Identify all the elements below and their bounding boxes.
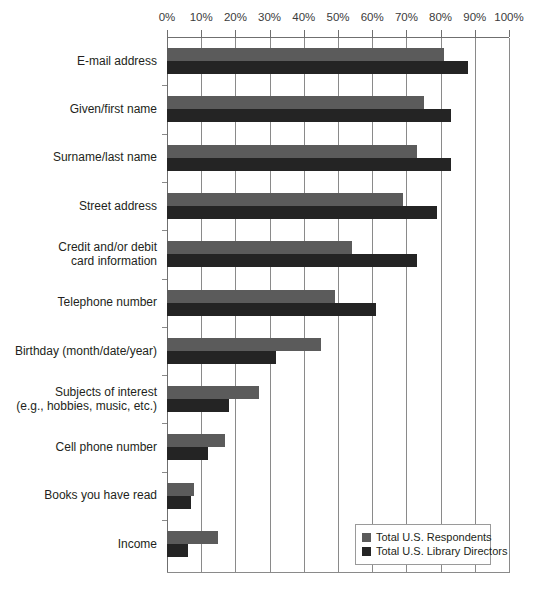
chart-legend: Total U.S. RespondentsTotal U.S. Library… <box>355 524 491 565</box>
bar-group <box>167 96 509 122</box>
bar <box>167 96 424 109</box>
category-label-line: Credit and/or debit <box>0 240 157 255</box>
legend-swatch-icon <box>362 533 371 542</box>
bar-group <box>167 290 509 316</box>
category-label-line: (e.g., hobbies, music, etc.) <box>0 399 157 414</box>
y-tick-mark <box>162 279 167 280</box>
legend-label: Total U.S. Respondents <box>376 531 492 544</box>
category-label-line: Given/first name <box>0 102 157 117</box>
bar <box>167 434 225 447</box>
category-label-line: Subjects of interest <box>0 385 157 400</box>
x-axis-tick-labels: 0%10%20%30%40%50%60%70%80%90%100% <box>0 10 536 26</box>
bar-group <box>167 241 509 267</box>
plot-area <box>167 38 509 573</box>
category-label-line: Surname/last name <box>0 150 157 165</box>
bar <box>167 496 191 509</box>
x-tick-mark <box>338 30 339 37</box>
bar <box>167 206 437 219</box>
bar <box>167 290 335 303</box>
bar <box>167 531 218 544</box>
y-tick-mark <box>162 520 167 521</box>
category-label-line: Income <box>0 537 157 552</box>
category-label: Given/first name <box>0 102 162 117</box>
category-label-line: Street address <box>0 199 157 214</box>
bar <box>167 61 468 74</box>
category-label: Street address <box>0 199 162 214</box>
x-tick-mark <box>304 30 305 37</box>
bar <box>167 447 208 460</box>
x-tick-label: 60% <box>361 10 384 24</box>
y-tick-mark <box>162 230 167 231</box>
x-tick-mark <box>406 30 407 37</box>
bar-group <box>167 434 509 460</box>
x-tick-mark <box>201 30 202 37</box>
bar <box>167 544 188 557</box>
bar-group <box>167 338 509 364</box>
y-axis-category-labels: E-mail addressGiven/first nameSurname/la… <box>0 38 162 573</box>
y-tick-mark <box>162 327 167 328</box>
category-label-line: Cell phone number <box>0 440 157 455</box>
bar-group <box>167 145 509 171</box>
x-tick-mark <box>372 30 373 37</box>
category-label: Birthday (month/date/year) <box>0 344 162 359</box>
x-tick-mark <box>167 30 168 37</box>
x-tick-label: 10% <box>190 10 213 24</box>
legend-swatch-icon <box>362 547 371 556</box>
category-label: Income <box>0 537 162 552</box>
x-tick-label: 90% <box>463 10 486 24</box>
category-label-line: card information <box>0 254 157 269</box>
legend-label: Total U.S. Library Directors <box>376 545 507 558</box>
bar <box>167 158 451 171</box>
x-tick-label: 40% <box>292 10 315 24</box>
legend-entry: Total U.S. Respondents <box>362 531 484 544</box>
bar <box>167 351 276 364</box>
legend-entry: Total U.S. Library Directors <box>362 545 484 558</box>
category-label: Cell phone number <box>0 440 162 455</box>
y-tick-mark <box>162 134 167 135</box>
bar <box>167 145 417 158</box>
category-label: Telephone number <box>0 295 162 310</box>
category-label: Credit and/or debitcard information <box>0 240 162 269</box>
bar <box>167 109 451 122</box>
bar <box>167 48 444 61</box>
bar-group <box>167 193 509 219</box>
x-tick-label: 70% <box>395 10 418 24</box>
y-tick-mark <box>162 375 167 376</box>
x-tick-mark <box>441 30 442 37</box>
x-tick-mark <box>235 30 236 37</box>
x-tick-label: 20% <box>224 10 247 24</box>
bar <box>167 254 417 267</box>
bar <box>167 193 403 206</box>
bar <box>167 303 376 316</box>
y-tick-mark <box>162 423 167 424</box>
bar-group <box>167 483 509 509</box>
x-tick-label: 30% <box>258 10 281 24</box>
x-tick-mark <box>475 30 476 37</box>
bottom-axis-line <box>167 572 509 573</box>
bar-group <box>167 386 509 412</box>
category-label-line: Birthday (month/date/year) <box>0 344 157 359</box>
x-tick-mark <box>270 30 271 37</box>
x-tick-label: 100% <box>494 10 523 24</box>
y-tick-mark <box>162 85 167 86</box>
bar <box>167 241 352 254</box>
x-tick-label: 0% <box>159 10 176 24</box>
x-tick-mark <box>509 30 510 37</box>
category-label: Surname/last name <box>0 150 162 165</box>
category-label: E-mail address <box>0 54 162 69</box>
bar <box>167 386 259 399</box>
y-tick-mark <box>162 182 167 183</box>
bar <box>167 338 321 351</box>
bar-group <box>167 48 509 74</box>
category-label: Books you have read <box>0 488 162 503</box>
x-tick-label: 80% <box>429 10 452 24</box>
bar <box>167 399 229 412</box>
bar-chart: 0%10%20%30%40%50%60%70%80%90%100% E-mail… <box>0 0 536 589</box>
bar <box>167 483 194 496</box>
category-label-line: Books you have read <box>0 488 157 503</box>
category-label: Subjects of interest(e.g., hobbies, musi… <box>0 385 162 414</box>
x-tick-label: 50% <box>326 10 349 24</box>
category-label-line: Telephone number <box>0 295 157 310</box>
category-label-line: E-mail address <box>0 54 157 69</box>
y-tick-mark <box>162 472 167 473</box>
